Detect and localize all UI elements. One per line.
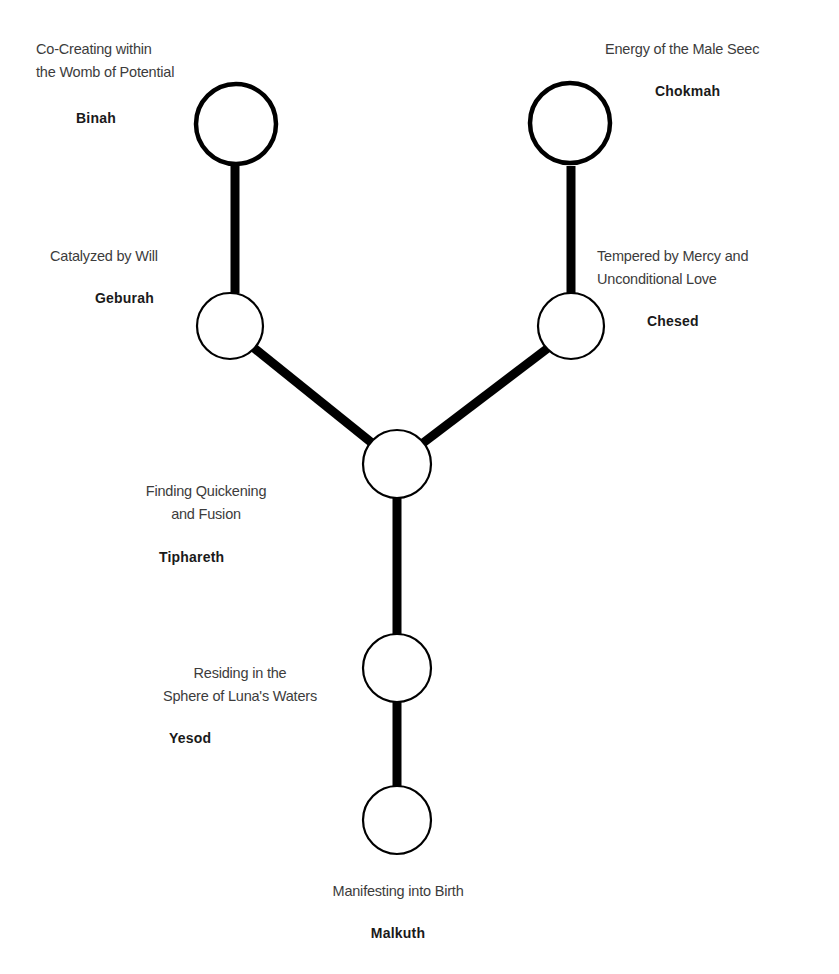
node-geburah-circle[interactable] (197, 293, 263, 359)
malkuth-description-line1: Manifesting into Birth (333, 880, 464, 903)
chesed-description-line1: Tempered by Mercy and (597, 245, 748, 268)
chokmah-label: Chokmah (655, 83, 720, 99)
sephirot (196, 83, 610, 854)
tiphareth-description-line2: and Fusion (146, 503, 267, 526)
tiphareth-description-line1: Finding Quickening (146, 480, 267, 503)
binah-description: Co-Creating within the Womb of Potential (36, 38, 174, 84)
chesed-description-line2: Unconditional Love (597, 268, 748, 291)
tiphareth-description: Finding Quickening and Fusion (146, 480, 267, 526)
yesod-description-line2: Sphere of Luna's Waters (163, 685, 317, 708)
path-geburah-tiphareth (254, 348, 372, 443)
tree-diagram (0, 0, 839, 974)
binah-description-line1: Co-Creating within (36, 38, 174, 61)
geburah-label: Geburah (95, 290, 154, 306)
malkuth-description: Manifesting into Birth (333, 880, 464, 903)
node-binah-circle[interactable] (196, 84, 276, 164)
chokmah-description: Energy of the Male Seec (605, 38, 759, 61)
tiphareth-label: Tiphareth (159, 549, 224, 565)
geburah-description: Catalyzed by Will (50, 245, 158, 268)
chesed-label: Chesed (647, 313, 699, 329)
chokmah-description-line1: Energy of the Male Seec (605, 38, 759, 61)
node-malkuth-circle[interactable] (363, 786, 431, 854)
path-chesed-tiphareth (423, 348, 548, 443)
node-chesed-circle[interactable] (538, 293, 604, 359)
yesod-description-line1: Residing in the (163, 662, 317, 685)
yesod-description: Residing in the Sphere of Luna's Waters (163, 662, 317, 708)
chesed-description: Tempered by Mercy and Unconditional Love (597, 245, 748, 291)
malkuth-label: Malkuth (371, 925, 425, 941)
binah-description-line2: the Womb of Potential (36, 61, 174, 84)
yesod-label: Yesod (169, 730, 211, 746)
node-tiphareth-circle[interactable] (363, 430, 431, 498)
geburah-description-line1: Catalyzed by Will (50, 245, 158, 268)
node-yesod-circle[interactable] (363, 634, 431, 702)
node-chokmah-circle[interactable] (530, 83, 610, 163)
binah-label: Binah (76, 110, 116, 126)
